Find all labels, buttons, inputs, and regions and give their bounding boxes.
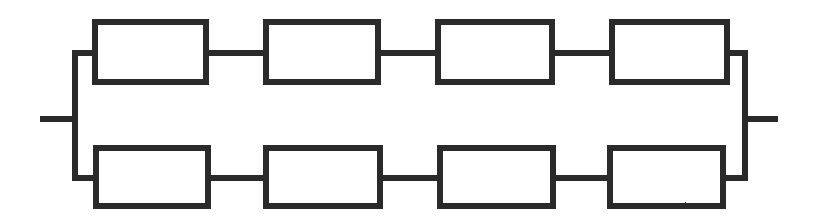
component-top-1 (95, 22, 206, 82)
component-bottom-4 (610, 148, 723, 206)
schematic-diagram (0, 0, 813, 222)
component-bottom-1 (96, 148, 208, 206)
component-bottom-2 (266, 148, 380, 206)
component-top-2 (266, 22, 378, 82)
schematic-canvas (0, 0, 813, 222)
component-top-3 (438, 22, 552, 82)
component-top-4 (612, 22, 727, 82)
component-bottom-3 (440, 148, 553, 206)
